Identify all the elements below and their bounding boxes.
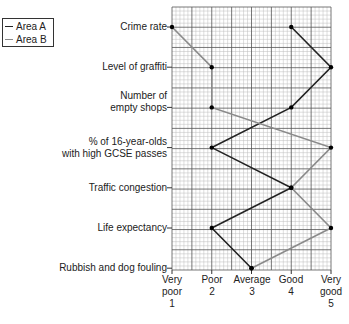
data-point: [210, 145, 214, 149]
plot-area: [0, 0, 349, 324]
data-point: [210, 65, 214, 69]
data-point: [329, 65, 333, 69]
data-point: [329, 145, 333, 149]
data-point: [289, 25, 293, 29]
data-point: [329, 226, 333, 230]
data-point: [170, 25, 174, 29]
data-point: [210, 105, 214, 109]
data-point: [289, 186, 293, 190]
data-point: [210, 226, 214, 230]
data-point: [289, 105, 293, 109]
data-point: [249, 266, 253, 270]
